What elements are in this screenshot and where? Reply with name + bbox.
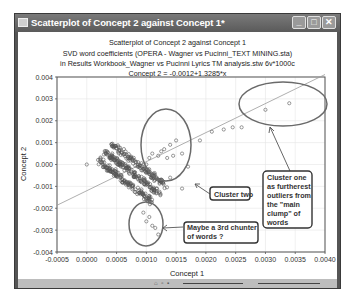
svg-text:Maybe a 3rd chunter: Maybe a 3rd chunter xyxy=(187,223,257,232)
x-axis-label: Concept 1 xyxy=(170,269,204,278)
x-tick-label: -0.0005 xyxy=(45,256,69,263)
svg-text:outliers from: outliers from xyxy=(267,191,311,200)
y-tick-label: -0.001 xyxy=(33,183,53,190)
x-axis-ticks: -0.00050.00000.00050.00100.00150.00200.0… xyxy=(45,252,336,263)
cluster-one-callout: Cluster oneas furtherestoutliers fromthe… xyxy=(263,171,312,228)
y-tick-label: 0.000 xyxy=(35,161,53,168)
y-tick-label: 0.004 xyxy=(35,74,53,81)
cluster-two-ellipse xyxy=(141,109,191,181)
y-tick-label: 0.002 xyxy=(35,117,53,124)
y-tick-label: 0.001 xyxy=(35,139,53,146)
x-tick-label: 0.0010 xyxy=(136,256,158,263)
x-tick-label: 0.0025 xyxy=(225,256,247,263)
svg-text:of words ?: of words ? xyxy=(187,232,223,241)
x-tick-label: 0.0020 xyxy=(195,256,217,263)
y-axis-ticks: 0.0040.0030.0020.0010.000-0.001-0.002-0.… xyxy=(33,74,57,256)
cluster-two-callout: Cluster two xyxy=(210,187,254,200)
y-tick-label: 0.003 xyxy=(35,95,53,102)
x-tick-label: 0.0015 xyxy=(165,256,187,263)
y-tick-label: -0.002 xyxy=(33,205,53,212)
cluster-three-ellipse xyxy=(129,202,163,246)
svg-text:the "main: the "main xyxy=(267,200,300,209)
cluster-one-ellipse xyxy=(239,82,327,126)
cluster-three-callout: Maybe a 3rd chunterof words ? xyxy=(184,222,258,243)
svg-text:words: words xyxy=(266,218,288,227)
data-points xyxy=(85,102,291,236)
x-tick-label: 0.0030 xyxy=(255,256,277,263)
cluster-two-arrow xyxy=(195,184,210,194)
cluster-three-arrow xyxy=(163,227,183,228)
y-axis-label: Concept 2 xyxy=(19,147,28,181)
x-tick-label: 0.0005 xyxy=(106,256,128,263)
svg-text:Cluster two: Cluster two xyxy=(214,190,254,199)
y-tick-label: -0.003 xyxy=(33,227,53,234)
x-tick-label: 0.0035 xyxy=(285,256,307,263)
svg-text:as furtherest: as furtherest xyxy=(267,182,311,191)
x-tick-label: 0.0040 xyxy=(314,256,336,263)
scatterplot-chart: 0.0040.0030.0020.0010.000-0.001-0.002-0.… xyxy=(0,0,354,297)
x-tick-label: 0.0000 xyxy=(76,256,98,263)
y-tick-label: -0.004 xyxy=(33,249,53,256)
svg-text:Cluster one: Cluster one xyxy=(267,173,307,182)
svg-text:clump" of: clump" of xyxy=(267,209,301,218)
